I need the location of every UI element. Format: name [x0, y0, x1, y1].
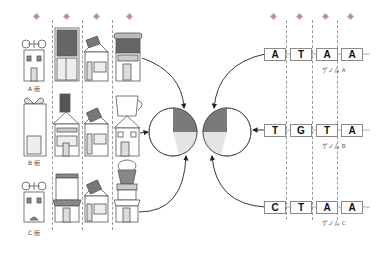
building-b3	[84, 108, 108, 156]
building-b4	[114, 96, 142, 156]
building-b2	[53, 94, 79, 156]
arrow-a-to-pie-left	[142, 58, 184, 108]
street-label-b: B 街	[19, 158, 49, 167]
building-a3	[84, 36, 108, 81]
genome-a-base-3: A	[316, 48, 338, 61]
building-a1	[22, 40, 46, 81]
building-c4	[114, 160, 140, 222]
arrow-genome-a-to-pie-right	[214, 54, 265, 108]
genome-a-base-4: A	[341, 48, 363, 61]
building-a4	[114, 33, 142, 81]
genome-b-base-3: T	[316, 124, 338, 137]
diagram-canvas: A 街 B 街 C 街 A T A A ゲノム A T G T A ゲノム B …	[0, 0, 385, 253]
genome-label-c: ゲノム C	[322, 219, 346, 227]
genome-label-b: ゲノム B	[322, 142, 346, 150]
genome-b-base-4: A	[341, 124, 363, 137]
genome-c-base-1: C	[264, 201, 286, 214]
building-c3	[84, 180, 108, 222]
genome-c-base-4: A	[341, 201, 363, 214]
street-label-a: A 街	[19, 84, 49, 93]
street-label-c: C 街	[19, 228, 49, 237]
building-a2	[55, 28, 79, 81]
genome-b-base-1: T	[264, 124, 286, 137]
building-c1	[22, 182, 46, 222]
genome-c-base-2: T	[290, 201, 312, 214]
genome-a-base-2: T	[290, 48, 312, 61]
genome-b-base-2: G	[290, 124, 312, 137]
pie-left	[149, 108, 197, 156]
building-c2	[53, 174, 81, 222]
genome-c-base-3: A	[316, 201, 338, 214]
genome-a-base-1: A	[264, 48, 286, 61]
arrow-genome-c-to-pie-right	[212, 156, 265, 207]
pie-right	[203, 108, 251, 156]
genome-label-a: ゲノム A	[322, 66, 346, 74]
arrow-c-to-pie-left	[139, 156, 186, 212]
building-b1	[24, 98, 46, 156]
arrow-b-to-pie-left	[140, 132, 148, 133]
